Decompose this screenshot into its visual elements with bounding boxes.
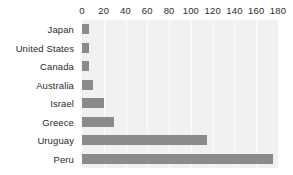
y-category-label: Japan: [48, 24, 74, 35]
y-category-label: Australia: [36, 79, 74, 90]
x-tick-label: 60: [142, 5, 153, 17]
y-category-label: United States: [16, 42, 74, 53]
y-category-label: Canada: [40, 61, 74, 72]
bar: [82, 24, 89, 34]
y-category-label: Uruguay: [37, 135, 74, 146]
y-axis-category-labels: JapanUnited StatesCanadaAustraliaIsraelG…: [0, 20, 78, 168]
gridline: [213, 20, 214, 168]
bar: [82, 61, 89, 71]
y-category-label: Israel: [50, 98, 74, 109]
bar: [82, 117, 114, 127]
bar: [82, 43, 89, 53]
x-tick-label: 40: [120, 5, 131, 17]
x-tick-label: 0: [79, 5, 84, 17]
bar: [82, 154, 273, 164]
gridline: [234, 20, 235, 168]
plot-area: [82, 20, 278, 168]
bar: [82, 80, 93, 90]
y-category-label: Greece: [42, 116, 74, 127]
gridline: [147, 20, 148, 168]
x-tick-label: 20: [98, 5, 109, 17]
x-tick-label: 180: [270, 5, 286, 17]
bar: [82, 98, 104, 108]
gridline: [126, 20, 127, 168]
gridline: [104, 20, 105, 168]
bar-chart: 020406080100120140160180 JapanUnited Sta…: [0, 0, 293, 175]
x-tick-label: 120: [204, 5, 220, 17]
x-tick-label: 160: [248, 5, 264, 17]
gridline: [191, 20, 192, 168]
gridline: [169, 20, 170, 168]
x-tick-label: 80: [164, 5, 175, 17]
x-axis-tick-labels: 020406080100120140160180: [0, 5, 293, 19]
x-tick-label: 140: [226, 5, 242, 17]
bar: [82, 135, 207, 145]
gridline: [256, 20, 257, 168]
y-category-label: Peru: [54, 153, 74, 164]
x-tick-label: 100: [183, 5, 199, 17]
